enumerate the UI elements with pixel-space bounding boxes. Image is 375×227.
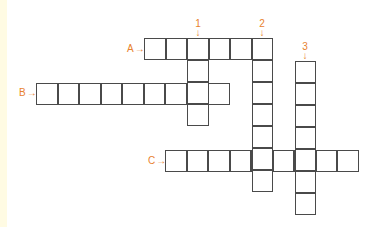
down-arrow-icon: ↓ (260, 27, 265, 38)
down-arrow-icon: ↓ (303, 50, 308, 61)
cell-a-1[interactable] (144, 38, 166, 60)
cell-3-1[interactable] (295, 61, 317, 83)
cell-1-4[interactable] (187, 104, 209, 126)
cell-2-4[interactable] (252, 104, 274, 126)
cell-c-9[interactable] (337, 150, 359, 172)
cell-3-4[interactable] (295, 127, 317, 149)
cell-3-5[interactable] (295, 149, 317, 171)
cell-c-6[interactable] (273, 150, 295, 172)
cell-b-5[interactable] (122, 83, 144, 105)
cell-a-5[interactable] (230, 38, 252, 60)
cell-2-2[interactable] (252, 60, 274, 82)
cell-b-9[interactable] (208, 83, 230, 105)
left-margin-strip (0, 0, 7, 227)
cell-a-2[interactable] (166, 38, 188, 60)
cell-b-7[interactable] (165, 83, 187, 105)
cell-a-4[interactable] (209, 38, 231, 60)
cell-c-3[interactable] (208, 150, 230, 172)
cell-c-1[interactable] (165, 150, 187, 172)
cell-3-7[interactable] (295, 193, 317, 215)
cell-2-5[interactable] (252, 126, 274, 148)
down-label-2: 2↓ (256, 19, 268, 37)
cell-2-3[interactable] (252, 82, 274, 104)
cell-b-4[interactable] (101, 83, 123, 105)
down-arrow-icon: ↓ (196, 27, 201, 38)
cell-2-7[interactable] (252, 170, 274, 192)
cell-1-2[interactable] (187, 60, 209, 82)
cell-a-6[interactable] (252, 38, 274, 60)
cell-a-3[interactable] (187, 38, 209, 60)
cell-c-8[interactable] (316, 150, 338, 172)
cell-2-6[interactable] (252, 148, 274, 170)
cell-c-2[interactable] (187, 150, 209, 172)
cell-b-6[interactable] (144, 83, 166, 105)
cell-3-6[interactable] (295, 171, 317, 193)
across-label-c: C (148, 156, 166, 166)
cell-3-3[interactable] (295, 105, 317, 127)
across-label-a: A (127, 44, 145, 54)
cell-3-2[interactable] (295, 83, 317, 105)
cell-b-3[interactable] (79, 83, 101, 105)
cell-c-4[interactable] (230, 150, 252, 172)
cell-b-1[interactable] (36, 83, 58, 105)
cell-b-2[interactable] (58, 83, 80, 105)
down-label-1: 1↓ (192, 19, 204, 37)
cell-1-3[interactable] (187, 82, 209, 104)
down-label-3: 3↓ (299, 42, 311, 60)
across-label-b: B (19, 88, 37, 98)
